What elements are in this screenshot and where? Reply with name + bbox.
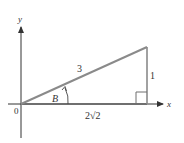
y-axis-label: y [17, 14, 22, 24]
hypotenuse-label: 3 [77, 63, 82, 74]
triangle-diagram: y x 0 3 1 B 2√2 [0, 0, 184, 143]
x-axis-label: x [166, 99, 171, 109]
right-angle-marker [136, 92, 147, 104]
angle-arrow-icon [62, 87, 67, 92]
angle-label: B [52, 93, 58, 104]
hypotenuse [21, 47, 147, 104]
opposite-label: 1 [150, 70, 155, 81]
adjacent-label: 2√2 [85, 110, 101, 121]
origin-label: 0 [14, 106, 19, 116]
